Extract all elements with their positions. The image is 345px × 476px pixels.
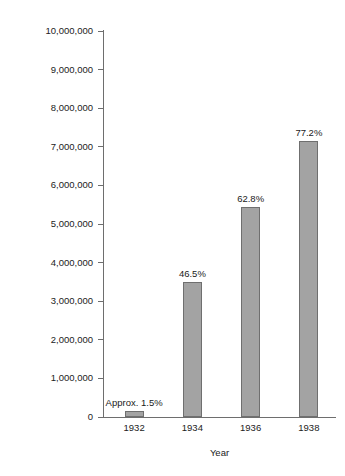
- y-axis-tick-mark: [98, 262, 104, 263]
- y-axis-tick-label: 6,000,000: [51, 178, 93, 191]
- y-axis-tick-mark: [98, 339, 104, 340]
- y-axis-tick-mark: [98, 301, 104, 302]
- y-axis-tick-label: 9,000,000: [51, 63, 93, 76]
- bar-value-label: 77.2%: [259, 127, 345, 139]
- x-axis-tick-label: 1932: [104, 421, 164, 434]
- bar-chart: Membership 01,000,0002,000,0003,000,0004…: [0, 0, 345, 476]
- bar-value-label: 46.5%: [142, 268, 242, 280]
- bar: [241, 207, 260, 417]
- bar-value-label: Approx. 1.5%: [84, 397, 184, 409]
- y-axis-tick-label: 5,000,000: [51, 217, 93, 230]
- y-axis-tick-label: 10,000,000: [45, 24, 93, 37]
- y-axis-tick-mark: [98, 31, 104, 32]
- y-axis-tick-mark: [98, 378, 104, 379]
- bar: [125, 411, 144, 417]
- y-axis-tick-label: 0: [88, 410, 93, 423]
- x-axis-tick-label: 1934: [162, 421, 222, 434]
- y-axis-tick-mark: [98, 146, 104, 147]
- y-axis-tick-mark: [98, 69, 104, 70]
- bar-value-label: 62.8%: [201, 193, 301, 205]
- y-axis-tick-label: 1,000,000: [51, 371, 93, 384]
- y-axis-tick-label: 7,000,000: [51, 140, 93, 153]
- x-axis-line: [103, 417, 336, 418]
- y-axis-tick-mark: [98, 224, 104, 225]
- y-axis-tick-mark: [98, 417, 104, 418]
- y-axis-tick-label: 2,000,000: [51, 333, 93, 346]
- y-axis-tick-mark: [98, 185, 104, 186]
- bar: [183, 282, 202, 417]
- bar: [299, 141, 318, 417]
- x-axis-tick-label: 1938: [279, 421, 339, 434]
- x-axis-title: Year: [103, 447, 336, 458]
- y-axis-tick-label: 8,000,000: [51, 101, 93, 114]
- y-axis-tick-label: 4,000,000: [51, 256, 93, 269]
- y-axis-tick-label: 3,000,000: [51, 294, 93, 307]
- x-axis-tick-label: 1936: [221, 421, 281, 434]
- y-axis-tick-mark: [98, 108, 104, 109]
